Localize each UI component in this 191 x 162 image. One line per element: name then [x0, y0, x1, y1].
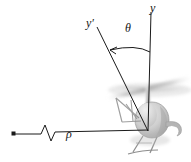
theta-arc-arrowhead: [110, 47, 117, 54]
theta-angle-label: θ: [125, 22, 131, 34]
rho-break-zigzag: [41, 125, 55, 141]
rho-distance-label: ρ: [66, 128, 72, 140]
tail-boom: [166, 122, 182, 136]
mechanics-diagram-figure: y y′ θ ρ: [0, 0, 191, 162]
y-axis-label: y: [150, 2, 155, 14]
y-prime-axis-label: y′: [86, 17, 94, 29]
body-shadow: [130, 134, 170, 146]
y-prime-axis-line: [97, 27, 148, 131]
reference-point-dot: [12, 132, 16, 136]
theta-arc: [110, 47, 150, 52]
diagram-canvas: [0, 0, 191, 162]
